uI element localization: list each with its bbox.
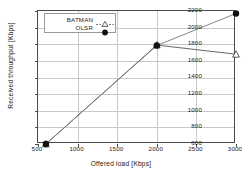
x-tick-label: 2000 [141, 146, 171, 152]
x-tick-label: 3000 [220, 146, 242, 152]
data-point-olsr [233, 10, 239, 16]
legend-marker-olsr-circle-icon [95, 23, 115, 32]
chart-figure: BATMAN OLSR 600800100012 [0, 0, 242, 175]
x-axis-title: Offered load [Kbps] [0, 160, 242, 167]
legend-item-olsr: OLSR [45, 23, 115, 32]
x-tick-label: 1500 [101, 146, 131, 152]
y-tick-label: 1400 [188, 73, 202, 79]
chart-legend: BATMAN OLSR [44, 13, 116, 33]
y-tick-label: 2200 [188, 7, 202, 13]
y-tick-label: 1800 [188, 40, 202, 46]
y-tick-label: 800 [191, 123, 202, 129]
y-tick-label: 1200 [188, 90, 202, 96]
plot-area: BATMAN OLSR [37, 10, 235, 143]
x-tick-label: 500 [22, 146, 52, 152]
legend-label-olsr: OLSR [47, 23, 93, 32]
y-tick-label: 2000 [188, 24, 202, 30]
y-tick-label: 1000 [188, 107, 202, 113]
x-tick-label: 2500 [180, 146, 210, 152]
series-line-olsr [46, 13, 236, 144]
data-point-olsr [154, 42, 160, 48]
x-tick-label: 1000 [62, 146, 92, 152]
y-tick-label: 1600 [188, 57, 202, 63]
y-axis-title: Received throughput [Kbps] [7, 4, 14, 128]
